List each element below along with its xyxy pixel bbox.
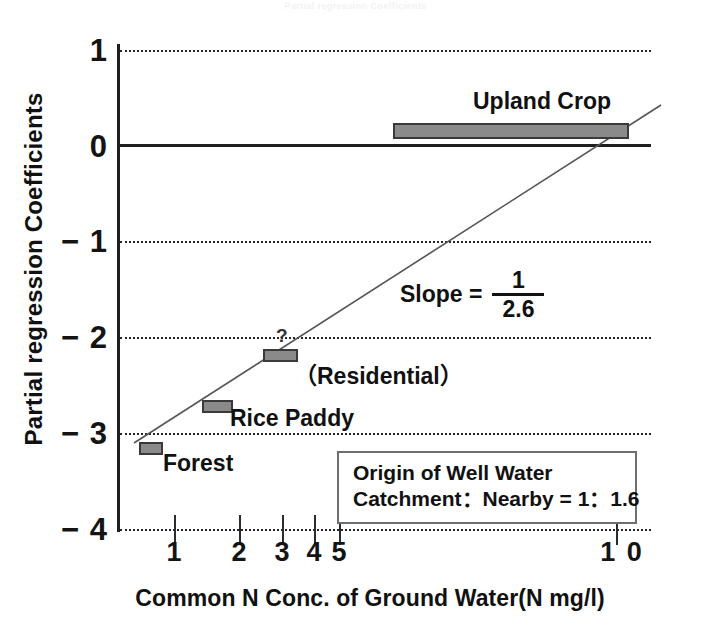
x-axis-title: Common N Conc. of Ground Water(N mg/l): [60, 585, 680, 612]
zero-line: [118, 144, 651, 147]
faint-header-text: Partial regression Coefficients: [0, 1, 711, 11]
x-tick-label-5: 5: [310, 539, 370, 566]
gridline-y-minus2: [120, 337, 651, 339]
y-tick-label-minus2: − 2: [48, 322, 108, 353]
residential-question-mark: ?: [276, 326, 288, 345]
slope-fraction: 1 2.6: [492, 268, 544, 321]
point-label-forest: Forest: [163, 452, 233, 475]
data-marker-forest[interactable]: [139, 442, 163, 455]
gridline-y-minus4: [120, 529, 651, 531]
data-marker-upland-crop[interactable]: [393, 123, 629, 139]
point-label-upland-crop: Upland Crop: [473, 90, 611, 113]
y-tick-label-0: 0: [48, 131, 108, 162]
chart-figure: Partial regression Coefficients 1 0 − 1 …: [0, 0, 711, 642]
regression-line: [134, 105, 661, 443]
x-tick-label-1: 1: [145, 539, 205, 566]
x-tick-label-10: 1 0: [592, 539, 652, 566]
y-tick-label-1: 1: [48, 35, 108, 66]
point-label-rice-paddy: Rice Paddy: [230, 407, 354, 430]
gridline-y-minus1: [120, 241, 651, 243]
y-axis-line: [117, 44, 120, 532]
legend-line-ratio: Catchment：Nearby = 1：1.6: [353, 486, 623, 512]
slope-annotation-text: Slope =: [400, 281, 482, 308]
slope-numerator: 1: [504, 268, 533, 293]
legend-box: Origin of Well Water Catchment：Nearby = …: [337, 451, 637, 524]
y-tick-label-minus3: − 3: [48, 418, 108, 449]
gridline-y-minus3: [120, 433, 651, 435]
y-tick-label-minus1: − 1: [48, 226, 108, 257]
slope-annotation: Slope = 1 2.6: [400, 268, 544, 321]
data-marker-rice-paddy[interactable]: [202, 400, 233, 413]
y-axis-title: Partial regression Coefficients: [20, 59, 48, 479]
y-tick-label-minus4: − 4: [48, 514, 108, 545]
point-label-residential: （Residential）: [294, 365, 463, 388]
legend-line-title: Origin of Well Water: [353, 460, 623, 486]
data-marker-residential[interactable]: [263, 349, 298, 362]
slope-denominator: 2.6: [494, 296, 542, 321]
gridline-y-1: [120, 50, 651, 52]
